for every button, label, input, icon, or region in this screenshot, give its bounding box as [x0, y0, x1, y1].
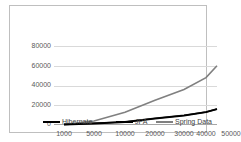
x-tick-label-30000: 30000 [174, 130, 193, 138]
y-axis-labels: 80000 60000 40000 20000 0 [10, 46, 51, 125]
x-tick-label-5000: 5000 [86, 130, 102, 138]
y-tick-label-40000: 40000 [32, 81, 51, 88]
legend-item-jpa[interactable]: JPA [116, 117, 147, 127]
legend-item-hibernate[interactable]: Hibernate [43, 117, 92, 127]
y-tick-label-80000: 80000 [32, 42, 51, 49]
plot-area [54, 46, 214, 125]
x-tick-label-20000: 20000 [145, 130, 164, 138]
legend-label-spring-data: Spring Data [175, 118, 212, 126]
y-tick-label-20000: 20000 [32, 101, 51, 108]
x-tick-label-40000: 40000 [196, 130, 214, 138]
y-tick-label-60000: 60000 [32, 62, 51, 69]
series-lines [54, 46, 214, 125]
x-tick-label-1000: 1000 [56, 130, 72, 138]
legend-swatch-spring-data [156, 121, 173, 123]
chart-legend: Hibernate JPA Spring Data [43, 117, 213, 127]
x-tick-label-10000: 10000 [115, 130, 134, 138]
x-axis-labels: 1000 5000 10000 20000 30000 40000 50000 [54, 130, 214, 140]
legend-label-jpa: JPA [135, 118, 147, 126]
legend-swatch-jpa [116, 121, 133, 123]
legend-label-hibernate: Hibernate [62, 118, 92, 126]
legend-swatch-hibernate [43, 121, 60, 123]
legend-item-spring-data[interactable]: Spring Data [156, 117, 212, 127]
chart-container: 80000 60000 40000 20000 0 1000 5000 1000… [9, 5, 207, 133]
line-spring-data [64, 66, 214, 125]
